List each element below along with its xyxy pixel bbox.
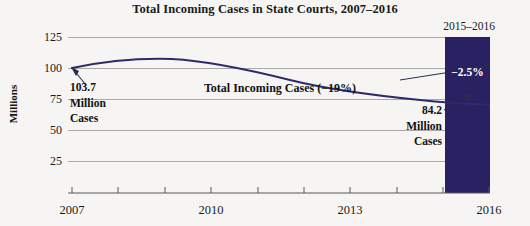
annotation-start-unit: Million (70, 96, 166, 112)
x-tick-label-2016: 2016 (459, 203, 519, 218)
x-axis (68, 187, 490, 193)
x-tick-label-2013: 2013 (320, 203, 380, 218)
x-tick-label-2007: 2007 (42, 203, 102, 218)
x-tick-label-2010: 2010 (181, 203, 241, 218)
highlight-band-value: −2.5% (445, 66, 490, 78)
annotation-end-cases: 84.2 Million Cases (372, 103, 442, 150)
annotation-start-cases: 103.7 Million Cases (70, 80, 166, 127)
annotation-end-unit: Million (372, 119, 442, 135)
annotation-end-value: 84.2 (372, 103, 442, 119)
annotation-start-noun: Cases (70, 111, 166, 127)
annotation-series-label: Total Incoming Cases (−19%) (155, 81, 405, 97)
annotation-start-value: 103.7 (70, 80, 166, 96)
chart-container: Total Incoming Cases in State Courts, 20… (0, 0, 530, 226)
annotation-end-noun: Cases (372, 134, 442, 150)
